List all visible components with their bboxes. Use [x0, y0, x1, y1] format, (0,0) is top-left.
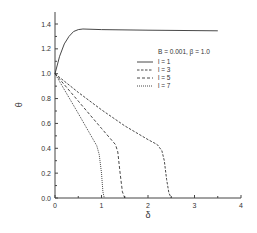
series-line: [55, 74, 171, 198]
y-tick-label: 0.8: [41, 95, 51, 102]
y-tick-label: 0.2: [41, 170, 51, 177]
y-tick-label: 0.0: [41, 195, 51, 202]
y-tick-label: 0.6: [41, 120, 51, 127]
y-tick-label: 1.4: [41, 21, 51, 28]
x-tick-label: 3: [193, 202, 197, 209]
chart: 012340.00.20.40.60.81.01.21.4δθ B = 0.00…: [0, 0, 257, 233]
y-tick-label: 0.4: [41, 145, 51, 152]
legend-label: l = 1: [158, 58, 171, 65]
x-axis-label: δ: [145, 210, 150, 220]
series-line: [55, 74, 104, 198]
y-tick-label: 1.2: [41, 45, 51, 52]
y-tick-label: 1.0: [41, 70, 51, 77]
x-tick-label: 1: [100, 202, 104, 209]
legend-label: l = 5: [158, 74, 171, 81]
legend-title: B = 0.001, β = 1.0: [158, 48, 210, 56]
x-tick-label: 4: [239, 202, 243, 209]
y-axis-label: θ: [14, 102, 24, 107]
legend-label: l = 7: [158, 82, 171, 89]
axes: 012340.00.20.40.60.81.01.21.4δθ: [14, 12, 243, 220]
legend: B = 0.001, β = 1.0l = 1l = 3l = 5l = 7: [137, 48, 210, 89]
x-tick-label: 0: [53, 202, 57, 209]
x-tick-label: 2: [146, 202, 150, 209]
legend-label: l = 3: [158, 66, 171, 73]
series-line: [55, 74, 125, 198]
